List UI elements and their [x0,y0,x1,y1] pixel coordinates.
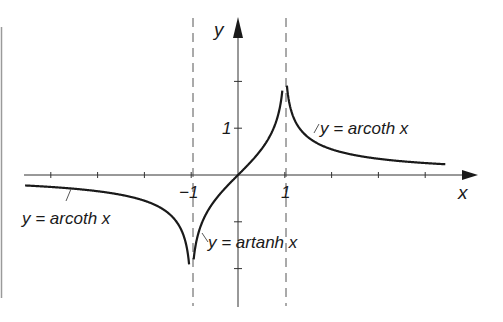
y-tick-label-1: 1 [222,119,231,138]
x-tick-label-1: 1 [281,183,290,202]
x-axis-label: x [457,182,469,203]
chart-canvas: x y −1 1 1 y = arcoth x y = arcoth x y =… [0,0,503,322]
x-tick-label-neg1: −1 [179,183,198,202]
y-axis-arrow-icon [233,17,243,38]
y-axis-label: y [212,19,225,40]
x-axis-arrow-icon [462,170,478,180]
annotation-arcoth-left: y = arcoth x [21,209,111,228]
annotation-arcoth-right: y = arcoth x [319,119,409,138]
x-axis [24,170,478,180]
leader-arcoth-left [66,189,71,201]
y-axis [233,17,243,307]
annotation-artanh: y = artanh x [207,233,298,252]
leader-arcoth-right [314,124,319,133]
